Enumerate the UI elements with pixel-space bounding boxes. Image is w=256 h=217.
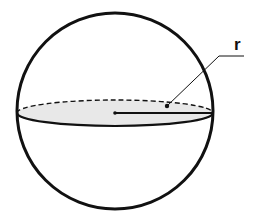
leader-line [167,56,244,106]
sphere-diagram: r [0,0,256,217]
radius-label: r [234,35,241,54]
center-point [113,111,117,115]
